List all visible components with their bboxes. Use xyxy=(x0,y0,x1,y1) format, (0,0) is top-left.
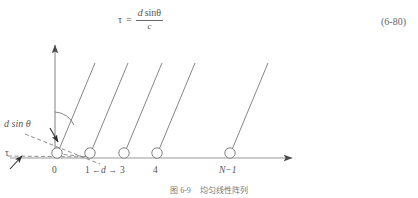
axis-tick-label-1: 1 xyxy=(85,165,90,175)
spacing-arrow-right: → xyxy=(108,165,117,175)
ray-1 xyxy=(91,63,128,152)
theta-angle-arc xyxy=(55,112,74,125)
equation-numerator: d sinθ xyxy=(136,8,163,20)
equation-tau-formula: τ = d sinθ c xyxy=(118,8,163,31)
axis-tick-label-0: 0 xyxy=(52,165,57,175)
array-element-n-1 xyxy=(225,148,235,158)
figure-caption-text: 均匀线性阵列 xyxy=(200,186,248,195)
figure-page: τ = d sinθ c (6-80) xyxy=(0,0,418,198)
equation-equals-sign: = xyxy=(126,14,132,25)
ray-2 xyxy=(125,63,162,152)
array-element-3 xyxy=(152,148,162,158)
equation-fraction: d sinθ c xyxy=(136,8,163,31)
array-element-2 xyxy=(119,148,129,158)
axis-tick-label-3: 3 xyxy=(120,165,125,175)
wavefront-rays xyxy=(58,63,268,152)
figure-caption-number: 图 6-9 xyxy=(170,186,191,195)
equation-row: τ = d sinθ c (6-80) xyxy=(0,6,418,36)
arrow-to-d-sin-theta xyxy=(50,128,58,142)
array-geometry-figure: d sin θ τ 0 1 3 4 N−1 ← d → xyxy=(0,36,418,182)
array-elements xyxy=(52,148,235,158)
ray-0 xyxy=(58,63,95,152)
ray-4 xyxy=(231,63,268,152)
spacing-arrow-left: ← xyxy=(92,165,101,175)
equation-lhs-tau: τ xyxy=(118,14,122,25)
ray-3 xyxy=(158,63,195,152)
figure-caption: 图 6-9均匀线性阵列 xyxy=(0,183,418,198)
equation-number: (6-80) xyxy=(381,16,406,27)
array-element-1 xyxy=(85,148,95,158)
equation-numerator-sin-theta: sinθ xyxy=(145,7,161,18)
label-tau: τ xyxy=(5,148,9,158)
equation-denominator: c xyxy=(147,21,151,31)
equation-numerator-d: d xyxy=(138,7,143,18)
array-element-0 xyxy=(52,148,62,158)
axis-tick-label-4: 4 xyxy=(153,165,158,175)
spacing-label-d: d xyxy=(101,165,106,175)
label-pointer-arrows xyxy=(10,128,58,169)
axis-tick-label-n-1: N−1 xyxy=(218,165,237,175)
label-d-sin-theta: d sin θ xyxy=(4,118,31,129)
